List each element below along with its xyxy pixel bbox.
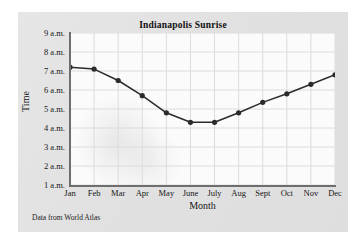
data-point-marker — [188, 120, 193, 125]
sunrise-time-series — [70, 33, 335, 185]
y-axis-tick-label: 1 a.m. — [19, 180, 65, 190]
x-axis-title: Month — [70, 200, 335, 211]
data-point-marker — [332, 72, 335, 77]
plot-area — [70, 33, 335, 185]
data-point-marker — [260, 100, 265, 105]
series-line — [70, 67, 335, 122]
y-axis-tick-label: 7 a.m. — [19, 66, 65, 76]
data-point-marker — [308, 82, 313, 87]
y-axis-tick-label: 4 a.m. — [19, 123, 65, 133]
y-axis-title: Time — [20, 91, 31, 112]
y-axis-tick-label: 9 a.m. — [19, 28, 65, 38]
x-axis-tick-label: May — [159, 188, 175, 198]
y-axis-tick-label: 8 a.m. — [19, 47, 65, 57]
x-axis-tick-label: Sept — [255, 188, 270, 198]
x-axis-tick-label: Oct — [281, 188, 293, 198]
chart-title: Indianapolis Sunrise — [18, 20, 348, 30]
data-point-marker — [164, 110, 169, 115]
source-note: Data from World Atlas — [32, 213, 100, 222]
data-point-marker — [236, 110, 241, 115]
y-axis-tick-label: 3 a.m. — [19, 142, 65, 152]
data-point-marker — [212, 120, 217, 125]
x-axis-tick-label: Feb — [88, 188, 101, 198]
chart-page: Indianapolis Sunrise 9 a.m.8 a.m.7 a.m.6… — [0, 0, 359, 243]
data-point-marker — [91, 67, 96, 72]
data-point-marker — [284, 91, 289, 96]
x-axis-line — [69, 185, 336, 187]
x-axis-tick-label: Dec — [328, 188, 342, 198]
x-axis-tick-label: Apr — [136, 188, 149, 198]
x-axis-tick-label: June — [183, 188, 199, 198]
x-axis-tick-label: Aug — [231, 188, 246, 198]
y-axis-tick-label: 2 a.m. — [19, 161, 65, 171]
x-axis-tick-label: Mar — [111, 188, 125, 198]
x-axis-tick-label: July — [207, 188, 221, 198]
x-axis-tick-label: Jan — [64, 188, 75, 198]
figure-card: Indianapolis Sunrise 9 a.m.8 a.m.7 a.m.6… — [18, 12, 348, 232]
x-axis-tick-label: Nov — [304, 188, 319, 198]
data-point-marker — [116, 78, 121, 83]
data-point-marker — [140, 93, 145, 98]
y-axis-line — [69, 32, 71, 186]
